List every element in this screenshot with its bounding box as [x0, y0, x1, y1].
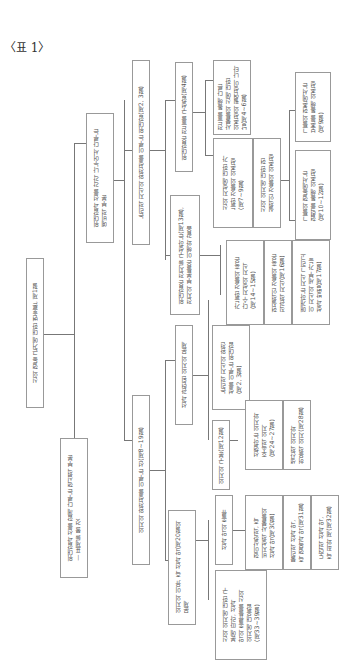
connector	[193, 375, 208, 376]
logic-greatness-node: 논리적 지식의 완전 성을 이루는 위대함 (제2, 3절)	[212, 325, 250, 410]
dependence-node: 전능을 통해 다른 사물들의 신에 대한 의존성의 필연성이 나타 남(제4~6…	[213, 60, 251, 135]
connector	[193, 112, 205, 113]
greatness-node: 논리적 지식의 완전성을 이루는 위대함(제2, 3절)	[132, 60, 150, 245]
intuitive-knowledge-node: 현실적인 것들의 혹은 직관적 지식(제16절)	[264, 240, 292, 325]
connector	[165, 255, 170, 256]
connector	[150, 150, 165, 151]
connector	[220, 245, 221, 295]
productive-will-node: 생산적 의지와 허용적 의지(제28절)	[283, 400, 311, 470]
connector	[208, 520, 209, 600]
connector	[200, 255, 220, 256]
metaphysical-evil-node: 형이상학적, 즉 비지성적 사물들의 선과 악(제30절)	[245, 495, 283, 570]
core-part-node: 위대함과 선을 함께 다루는 핵심적 부분 — 표제를 볼 것	[60, 438, 88, 578]
connector	[165, 100, 166, 260]
connector	[196, 540, 208, 541]
connector	[74, 143, 86, 144]
root-node: 신의 행동 근거에 대한 변호론, 제1절	[26, 258, 44, 408]
will-related-node: 선과 관련된 의지의 문제	[175, 325, 193, 425]
connector	[205, 80, 206, 155]
connector	[233, 530, 245, 531]
omniscience-node: 위대함은 전지를 구성하는(제13절), 전지의 부분들은 이해와 같음	[170, 195, 200, 315]
cooperation-node: 그들의 행동에서는 협력을 통해 의존성 (제10~12절)	[295, 150, 331, 240]
connector	[114, 180, 124, 181]
omnipotence-node: 위대함은 전능을 구성함(제4절)	[175, 62, 193, 172]
intellect-dependence-node: 신의 지성에 대한 가 능한 것들의 의존성 (제7~9절)	[213, 138, 253, 228]
connector	[230, 440, 238, 441]
will-dependence-node: 신의 의지에 대한 현 실적인 것들의 의존성	[253, 138, 281, 228]
connector	[124, 440, 132, 441]
connector	[205, 80, 213, 81]
connector	[165, 360, 166, 560]
connector	[208, 300, 209, 440]
connector	[165, 100, 175, 101]
evil-types-node: 선과 악의 종류	[215, 495, 233, 565]
will-division-node: 의지의 구분(제12절)	[212, 420, 230, 490]
connector	[150, 470, 165, 471]
possible-knowledge-node: 가능한 것들의 혹은 다수 지성의 지식 (제14~15절)	[226, 240, 264, 325]
connector	[165, 560, 168, 561]
goodness-branch-node: 의지의 완전성을 이루는 선(제8~19절)	[132, 395, 150, 565]
connector	[124, 100, 125, 440]
middle-knowledge-node: 매개하는 지식 그리고 이 지식의 세부 가능 성과 방법(제17절)	[292, 240, 330, 325]
will-reason-node: 의지의 이유, 즉 선과 악(제20절의 문제	[168, 510, 196, 625]
table-caption: 〈표 1〉	[4, 38, 50, 55]
will-evil-correspondence-node: 신의 의지에 대한 구 분에 따라, 선과 악의 종류들을 신의 의지에 대응함…	[215, 570, 267, 660]
connector	[165, 360, 175, 361]
connector	[281, 180, 289, 181]
connector	[205, 155, 213, 156]
connector	[289, 110, 290, 220]
connector	[124, 150, 132, 151]
antecedent-will-node: 선행하는 의지와 후속적 의지 (제24~27절)	[245, 400, 283, 470]
moral-evil-node: 도덕적 선과 악, 즉 죄와 제(제32절)	[311, 495, 339, 570]
connector	[44, 334, 74, 335]
preliminary-part-node: 위대함과 선을 각각 나누어서 다루는 예비적 부분	[86, 113, 114, 243]
preservation-node: 그들의 현존에서는 보존을 통해 의존성 (제9절)	[295, 72, 331, 142]
physical-evil-node: 물리적 선과 악, 즉 행복과 악(제31절)	[283, 495, 311, 570]
